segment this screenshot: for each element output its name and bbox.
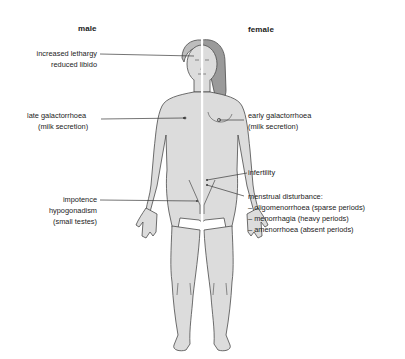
- label-infertility: infertility: [248, 167, 275, 178]
- hyperprolactinaemia-diagram: male female increased lethargy reduced l…: [0, 0, 405, 359]
- label-lethargy: increased lethargy reduced libido: [37, 48, 97, 70]
- right-leg: [204, 226, 233, 351]
- label-early-galactorrhoea: early galactorrhoea (milk secretion): [248, 110, 311, 132]
- label-menstrual-disturbance: menstrual disturbance: – oligomenorrhoea…: [248, 191, 365, 235]
- label-late-galactorrhoea: late galactorrhoea (milk secretion): [27, 110, 88, 132]
- male-female-divider: [201, 36, 203, 348]
- leader-lethargy: [100, 54, 194, 56]
- label-impotence: impotence hypogonadism (small testes): [49, 194, 97, 227]
- heading-female: female: [248, 25, 274, 34]
- left-leg: [171, 226, 200, 351]
- left-hand: [136, 208, 157, 238]
- heading-male: male: [78, 24, 97, 33]
